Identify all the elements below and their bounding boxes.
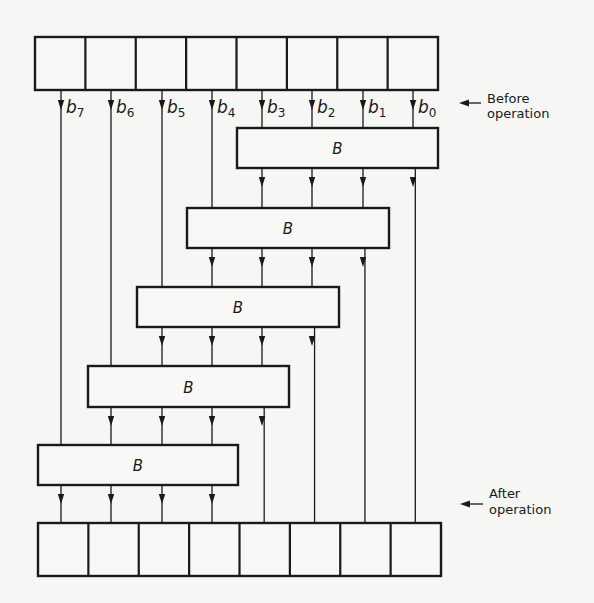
after-operation-annotation: After operation <box>460 486 551 517</box>
bottom-register-cell-2 <box>139 523 189 576</box>
bit-label-b7: b7 <box>66 97 84 120</box>
after-label-line2: operation <box>489 502 551 517</box>
top-register <box>35 37 438 90</box>
bit-label-b5: b5 <box>167 97 185 120</box>
bottom-register-cell-0 <box>38 523 88 576</box>
processing-block-3: B <box>137 287 339 327</box>
processing-block-2: B <box>187 208 389 248</box>
before-operation-annotation: Before operation <box>459 91 549 121</box>
before-label-line1: Before <box>487 91 530 106</box>
bottom-register-cell-1 <box>88 523 138 576</box>
bit-label-b1: b1 <box>368 97 386 120</box>
processing-block-5: B <box>38 445 238 485</box>
bit-label-b0: b0 <box>418 97 436 120</box>
block-label: B <box>332 140 342 158</box>
bottom-register <box>38 523 441 576</box>
bit-label-b2: b2 <box>317 97 335 120</box>
top-register-cell-1 <box>85 37 135 90</box>
block-label: B <box>283 220 293 238</box>
block-label: B <box>133 457 143 475</box>
left-arrow-icon <box>460 501 470 508</box>
top-register-cell-5 <box>287 37 337 90</box>
processing-block-4: B <box>88 366 289 407</box>
bit-label-b3: b3 <box>267 97 285 120</box>
bit-label-b6: b6 <box>116 97 134 120</box>
top-register-cell-2 <box>136 37 186 90</box>
bottom-register-cell-7 <box>391 523 441 576</box>
top-register-cell-4 <box>237 37 287 90</box>
left-arrow-icon <box>459 100 469 107</box>
block-label: B <box>183 379 193 397</box>
top-register-cell-3 <box>186 37 236 90</box>
block-label: B <box>233 299 243 317</box>
bit-label-b4: b4 <box>217 97 235 120</box>
top-register-cell-0 <box>35 37 85 90</box>
bit-reversal-diagram: BBBBB b7b6b5b4b3b2b1b0 Before operation … <box>0 0 594 603</box>
after-label-line1: After <box>489 486 521 501</box>
bottom-register-cell-6 <box>340 523 390 576</box>
processing-block-1: B <box>237 128 438 168</box>
bottom-register-cell-3 <box>189 523 239 576</box>
top-register-cell-6 <box>337 37 387 90</box>
top-register-cell-7 <box>388 37 438 90</box>
bit-labels: b7b6b5b4b3b2b1b0 <box>66 97 436 120</box>
processing-blocks: BBBBB <box>38 128 438 485</box>
bottom-register-cell-5 <box>290 523 340 576</box>
bottom-register-cell-4 <box>240 523 290 576</box>
before-label-line2: operation <box>487 106 549 121</box>
